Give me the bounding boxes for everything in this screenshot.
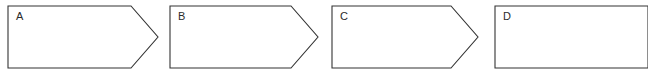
- chevron-label-a: A: [16, 11, 23, 22]
- chevron-label-c: C: [340, 11, 348, 22]
- chevron-shape-layer: [0, 0, 648, 82]
- chevron-shape-b[interactable]: [170, 6, 318, 68]
- chevron-shape-c[interactable]: [332, 6, 478, 68]
- chevron-shape-d[interactable]: [495, 6, 648, 68]
- diagram-canvas: A B C D: [0, 0, 648, 82]
- chevron-label-b: B: [178, 11, 185, 22]
- chevron-label-d: D: [503, 11, 511, 22]
- chevron-shape-a[interactable]: [8, 6, 158, 68]
